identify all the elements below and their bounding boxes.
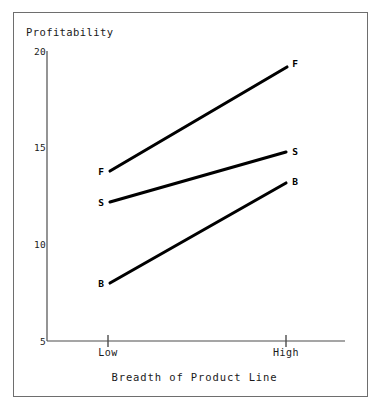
plot-canvas: [0, 0, 389, 413]
series-label-f-left: F: [95, 166, 107, 177]
series-label-s-right: S: [289, 146, 301, 157]
series-label-b-left: B: [95, 278, 107, 289]
series-label-f-right: F: [289, 58, 301, 69]
series-line-f: [110, 67, 287, 171]
series-line-s: [110, 152, 286, 202]
series-line-b: [110, 183, 286, 283]
chart-figure: Profitability 20 15 10 5 Low High F F S …: [0, 0, 389, 413]
series-label-b-right: B: [289, 176, 301, 187]
series-label-s-left: S: [95, 197, 107, 208]
x-axis-title: Breadth of Product Line: [0, 371, 389, 383]
